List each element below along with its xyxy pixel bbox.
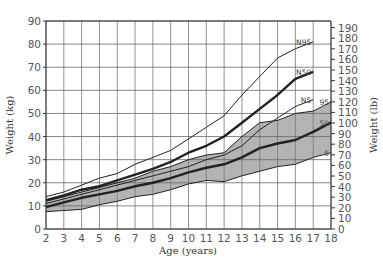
y-right-tick-label: 140	[338, 75, 358, 87]
x-tick-label: 16	[289, 232, 303, 244]
y-right-tick-label: 100	[338, 117, 358, 129]
y-right-tick-label: 0	[338, 223, 345, 235]
y-right-tick-label: 110	[338, 106, 358, 118]
y-tick-label: 50	[28, 107, 41, 119]
curve-label-n5: N5	[301, 96, 312, 105]
x-tick-label: 6	[114, 232, 121, 244]
y-right-tick-label: 20	[338, 202, 351, 214]
y-right-tick-label: 70	[338, 149, 351, 161]
y-right-tick-label: 10	[338, 212, 351, 224]
y-right-tick-label: 80	[338, 138, 351, 150]
x-axis-title: Age (years)	[158, 245, 217, 256]
y-right-tick-label: 50	[338, 170, 351, 182]
x-tick-label: 7	[132, 232, 139, 244]
y-tick-label: 90	[28, 15, 41, 27]
x-tick-label: 17	[307, 232, 320, 244]
x-tick-label: 9	[167, 232, 174, 244]
y-axis-title-left: Weight (kg)	[4, 95, 15, 154]
y-tick-label: 60	[28, 84, 41, 96]
x-tick-label: 13	[235, 232, 248, 244]
x-tick-label: 3	[60, 232, 67, 244]
weight-growth-chart: N95N50N595505 01020304050607080902345678…	[0, 0, 383, 269]
y-right-tick-label: 160	[338, 53, 358, 65]
x-tick-label: 18	[324, 232, 337, 244]
curve-label-95: 95	[319, 98, 329, 107]
y-right-tick-label: 90	[338, 128, 351, 140]
y-tick-label: 30	[28, 154, 41, 166]
x-tick-label: 14	[253, 232, 267, 244]
x-tick-label: 11	[200, 232, 213, 244]
curve-label-50: 50	[319, 119, 329, 128]
y-right-tick-label: 130	[338, 85, 358, 97]
y-tick-label: 0	[34, 223, 41, 235]
x-tick-label: 4	[78, 232, 85, 244]
x-tick-label: 10	[182, 232, 195, 244]
y-axis-title-right: Weight (lb)	[368, 97, 379, 153]
y-right-tick-label: 150	[338, 64, 358, 76]
y-right-tick-label: 30	[338, 191, 351, 203]
y-right-tick-label: 170	[338, 43, 358, 55]
y-right-tick-label: 190	[338, 22, 358, 34]
curve-label-n50: N50	[296, 68, 311, 77]
y-tick-label: 70	[28, 61, 41, 73]
x-tick-label: 15	[271, 232, 284, 244]
curve-label-5: 5	[324, 149, 329, 158]
x-tick-label: 5	[96, 232, 103, 244]
y-tick-label: 20	[28, 177, 41, 189]
y-right-tick-label: 180	[338, 32, 358, 44]
x-tick-label: 12	[217, 232, 230, 244]
y-right-tick-label: 60	[338, 159, 351, 171]
y-tick-label: 10	[28, 200, 41, 212]
y-right-tick-label: 40	[338, 181, 351, 193]
y-tick-label: 40	[28, 131, 41, 143]
y-tick-label: 80	[28, 38, 41, 50]
x-tick-label: 8	[150, 232, 157, 244]
y-right-tick-label: 120	[338, 96, 358, 108]
x-tick-label: 2	[43, 232, 50, 244]
curve-label-n95: N95	[296, 38, 311, 47]
